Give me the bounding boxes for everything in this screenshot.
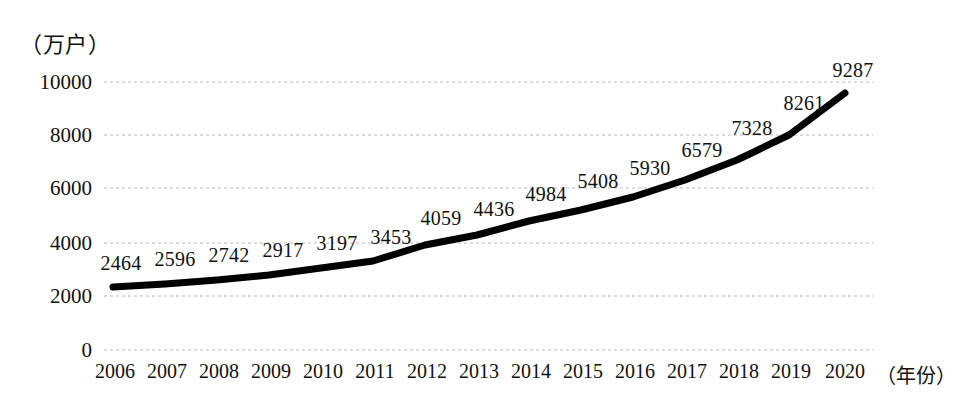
y-axis-ticks: 10000 8000 6000 4000 2000 0 (0, 0, 92, 402)
x-tick-2020: 2020 (825, 360, 865, 383)
x-tick-2009: 2009 (251, 360, 291, 383)
data-label-2011: 3453 (370, 226, 411, 249)
data-label-2017: 6579 (681, 139, 722, 162)
y-tick-10000: 10000 (0, 70, 92, 95)
x-tick-2019: 2019 (771, 360, 811, 383)
data-label-2016: 5930 (629, 157, 670, 180)
data-label-2009: 2917 (262, 239, 303, 262)
data-label-2020: 9287 (832, 59, 873, 82)
data-label-2018: 7328 (731, 117, 772, 140)
data-label-2006: 2464 (100, 252, 141, 275)
x-tick-2006: 2006 (95, 360, 135, 383)
data-label-2010: 3197 (316, 232, 357, 255)
data-label-2013: 4436 (473, 198, 514, 221)
y-tick-2000: 2000 (0, 284, 92, 309)
x-tick-2018: 2018 (719, 360, 759, 383)
x-tick-2008: 2008 (199, 360, 239, 383)
x-tick-2014: 2014 (511, 360, 551, 383)
x-tick-2013: 2013 (459, 360, 499, 383)
line-chart: （万户） 10000 8000 6000 4000 2000 0 2006 (0, 0, 968, 402)
x-tick-2011: 2011 (355, 360, 394, 383)
data-label-2012: 4059 (420, 207, 461, 230)
x-tick-2015: 2015 (563, 360, 603, 383)
chart-page: （万户） 10000 8000 6000 4000 2000 0 2006 (0, 0, 968, 402)
y-tick-4000: 4000 (0, 231, 92, 256)
data-label-2019: 8261 (783, 92, 824, 115)
y-tick-8000: 8000 (0, 123, 92, 148)
x-tick-2007: 2007 (147, 360, 187, 383)
x-tick-2017: 2017 (667, 360, 707, 383)
data-label-2014: 4984 (525, 183, 566, 206)
y-tick-0: 0 (0, 338, 92, 363)
x-tick-2010: 2010 (303, 360, 343, 383)
data-label-2015: 5408 (577, 170, 618, 193)
x-tick-2012: 2012 (407, 360, 447, 383)
y-tick-6000: 6000 (0, 176, 92, 201)
x-tick-2016: 2016 (615, 360, 655, 383)
x-axis-title: （年份） (876, 360, 956, 389)
data-label-2008: 2742 (208, 244, 249, 267)
data-label-2007: 2596 (154, 248, 195, 271)
